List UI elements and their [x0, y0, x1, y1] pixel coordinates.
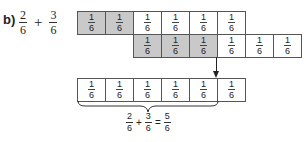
- unit-fraction: 16: [256, 36, 263, 56]
- denominator: 6: [201, 90, 206, 100]
- denominator: 6: [145, 46, 150, 56]
- problem-expression: 2 6 + 3 6: [19, 9, 57, 36]
- denominator: 6: [173, 90, 178, 100]
- denominator: 6: [229, 46, 234, 56]
- denominator: 6: [117, 90, 122, 100]
- denominator: 6: [145, 23, 150, 33]
- denominator: 6: [201, 23, 206, 33]
- denominator: 6: [89, 90, 94, 100]
- numerator: 3: [145, 112, 152, 123]
- numerator: 1: [144, 36, 151, 46]
- numerator: 1: [228, 36, 235, 46]
- fraction-cell: 16: [217, 11, 246, 35]
- denominator: 6: [117, 23, 122, 33]
- denominator: 6: [50, 23, 56, 36]
- numerator: 1: [200, 80, 207, 90]
- denominator: 6: [285, 46, 290, 56]
- plus-operator: +: [34, 15, 42, 30]
- unit-fraction: 16: [284, 36, 291, 56]
- fraction-bar-second-addend: 161616161616: [133, 34, 302, 56]
- fraction-term2: 3 6: [49, 9, 57, 36]
- fraction-b: 3 6: [145, 112, 152, 133]
- equals-sign: =: [155, 118, 161, 128]
- unit-fraction: 16: [200, 80, 207, 100]
- problem-label: b): [3, 12, 15, 27]
- numerator: 1: [144, 13, 151, 23]
- numerator: 1: [256, 36, 263, 46]
- numerator: 1: [200, 13, 207, 23]
- denominator: 6: [145, 90, 150, 100]
- unit-fraction: 16: [228, 36, 235, 56]
- numerator: 1: [172, 80, 179, 90]
- numerator: 1: [200, 36, 207, 46]
- denominator: 6: [229, 23, 234, 33]
- fraction-cell: 16: [161, 78, 190, 102]
- fraction-cell-shaded: 16: [77, 11, 106, 35]
- denominator: 6: [20, 23, 26, 36]
- fraction-cell-shaded: 16: [133, 34, 162, 58]
- denominator: 6: [165, 123, 170, 133]
- denominator: 6: [127, 123, 132, 133]
- denominator: 6: [173, 46, 178, 56]
- numerator: 1: [284, 36, 291, 46]
- denominator: 6: [201, 46, 206, 56]
- numerator: 1: [228, 13, 235, 23]
- unit-fraction: 16: [228, 13, 235, 33]
- fraction-cell-shaded: 16: [105, 11, 134, 35]
- denominator: 6: [257, 46, 262, 56]
- fraction-cell-shaded: 16: [161, 34, 190, 58]
- unit-fraction: 16: [172, 80, 179, 100]
- unit-fraction: 16: [116, 13, 123, 33]
- fraction-cell: 16: [105, 78, 134, 102]
- unit-fraction: 16: [88, 13, 95, 33]
- fraction-bar-result: 161616161616: [77, 78, 246, 100]
- fraction-cell-shaded: 16: [189, 34, 218, 58]
- numerator: 1: [228, 80, 235, 90]
- numerator: 1: [88, 80, 95, 90]
- numerator: 5: [164, 112, 171, 123]
- down-arrow-icon: [213, 71, 219, 78]
- plus-operator: +: [136, 118, 142, 128]
- unit-fraction: 16: [144, 13, 151, 33]
- unit-fraction: 16: [172, 36, 179, 56]
- numerator: 1: [116, 80, 123, 90]
- unit-fraction: 16: [144, 36, 151, 56]
- fraction-a: 2 6: [126, 112, 133, 133]
- fraction-cell: 16: [273, 34, 302, 58]
- fraction-cell: 16: [245, 34, 274, 58]
- fraction-cell: 16: [133, 78, 162, 102]
- numerator: 2: [126, 112, 133, 123]
- fraction-bar-first-addend: 161616161616: [77, 11, 246, 33]
- numerator: 1: [144, 80, 151, 90]
- fraction-cell: 16: [161, 11, 190, 35]
- numerator: 1: [172, 13, 179, 23]
- fraction-cell: 16: [77, 78, 106, 102]
- fraction-result: 5 6: [164, 112, 171, 133]
- numerator: 3: [49, 9, 57, 23]
- numerator: 1: [116, 13, 123, 23]
- unit-fraction: 16: [88, 80, 95, 100]
- numerator: 1: [88, 13, 95, 23]
- down-arrow-line: [216, 57, 217, 72]
- unit-fraction: 16: [116, 80, 123, 100]
- numerator: 1: [172, 36, 179, 46]
- fraction-cell: 16: [189, 78, 218, 102]
- unit-fraction: 16: [200, 36, 207, 56]
- fraction-cell: 16: [133, 11, 162, 35]
- sum-equation: 2 6 + 3 6 = 5 6: [126, 112, 171, 133]
- denominator: 6: [229, 90, 234, 100]
- unit-fraction: 16: [172, 13, 179, 33]
- denominator: 6: [89, 23, 94, 33]
- fraction-term1: 2 6: [19, 9, 27, 36]
- numerator: 2: [19, 9, 27, 23]
- denominator: 6: [146, 123, 151, 133]
- unit-fraction: 16: [144, 80, 151, 100]
- fraction-cell: 16: [217, 34, 246, 58]
- unit-fraction: 16: [200, 13, 207, 33]
- fraction-cell: 16: [217, 78, 246, 102]
- denominator: 6: [173, 23, 178, 33]
- unit-fraction: 16: [228, 80, 235, 100]
- fraction-cell: 16: [189, 11, 218, 35]
